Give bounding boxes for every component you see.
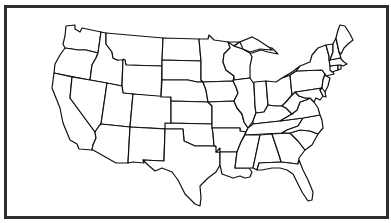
state-ND — [162, 38, 201, 61]
state-RI — [338, 65, 341, 70]
state-AZ — [92, 124, 130, 163]
state-NM — [128, 127, 165, 163]
lake-superior — [240, 37, 272, 52]
state-IA — [203, 81, 238, 102]
state-SD — [162, 60, 203, 82]
us-outline-map — [0, 0, 391, 223]
state-ME — [336, 25, 353, 54]
state-FL — [257, 160, 313, 201]
state-KS — [171, 101, 212, 124]
